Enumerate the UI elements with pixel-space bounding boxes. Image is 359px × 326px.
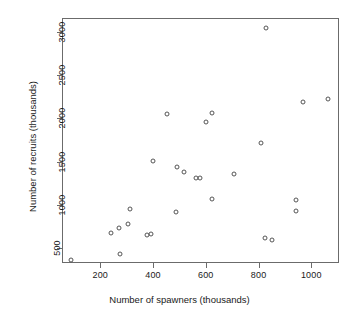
scatter-plot-figure: 2004006008001000 50010001500200025003000…: [0, 0, 359, 326]
y-tick-label: 3000: [57, 32, 67, 53]
data-point: [293, 198, 298, 203]
data-point: [126, 221, 131, 226]
data-point: [210, 196, 215, 201]
x-tick-label: 400: [145, 270, 161, 280]
data-point: [263, 236, 268, 241]
y-tick-label: 2500: [57, 75, 67, 96]
data-point: [264, 26, 269, 31]
data-point: [294, 208, 299, 213]
plot-area: [62, 18, 339, 263]
x-tick-label: 600: [198, 270, 214, 280]
data-point: [151, 158, 156, 163]
x-tick: [206, 263, 207, 268]
data-point: [174, 165, 179, 170]
y-axis-title: Number of recruits (thousands): [27, 47, 38, 247]
data-point: [182, 169, 187, 174]
x-tick-label: 200: [92, 270, 108, 280]
y-tick-label: 1000: [57, 205, 67, 226]
data-point: [197, 176, 202, 181]
x-tick-label: 1000: [301, 270, 322, 280]
data-points-layer: [63, 19, 338, 262]
x-tick: [259, 263, 260, 268]
data-point: [270, 237, 275, 242]
data-point: [209, 110, 214, 115]
x-tick: [311, 263, 312, 268]
data-point: [259, 140, 264, 145]
y-tick-label: 500: [52, 248, 62, 264]
data-point: [109, 230, 114, 235]
data-point: [149, 232, 154, 237]
x-tick-label: 800: [251, 270, 267, 280]
data-point: [118, 252, 123, 257]
data-point: [231, 171, 236, 176]
data-point: [326, 96, 331, 101]
data-point: [127, 206, 132, 211]
data-point: [300, 99, 305, 104]
data-point: [68, 258, 73, 263]
x-axis-title: Number of spawners (thousands): [0, 294, 359, 305]
x-tick: [100, 263, 101, 268]
data-point: [203, 119, 208, 124]
y-tick-label: 1500: [57, 162, 67, 183]
x-tick: [153, 263, 154, 268]
data-point: [173, 210, 178, 215]
data-point: [164, 112, 169, 117]
y-tick-label: 2000: [57, 118, 67, 139]
data-point: [117, 226, 122, 231]
